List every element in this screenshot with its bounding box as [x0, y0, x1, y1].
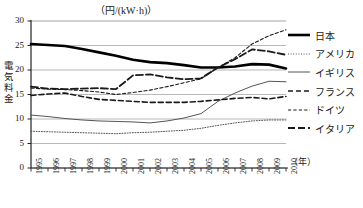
legend-swatch-icon-4 — [288, 105, 310, 115]
legend-item-5[interactable]: イタリア — [288, 119, 363, 138]
x-tick-label-2006: 2006 — [222, 158, 231, 174]
x-tick-label-2001: 2001 — [137, 158, 146, 174]
electricity-price-line-chart: （円/(kW·h)） 電 気 料 金 （年） 日本アメリカイギリスフランスドイツ… — [0, 0, 363, 208]
legend-label-1: アメリカ — [315, 46, 355, 61]
legend-label-4: ドイツ — [315, 102, 345, 117]
legend-label-2: イギリス — [315, 65, 355, 80]
legend-item-2[interactable]: イギリス — [288, 63, 363, 82]
y-tick-label-10: 10 — [6, 113, 24, 123]
x-tick-label-2009: 2009 — [273, 158, 282, 174]
y-tick-label-20: 20 — [6, 64, 24, 74]
legend-swatch-icon-3 — [288, 86, 310, 96]
x-tick-label-2003: 2003 — [171, 158, 180, 174]
x-tick-label-1995: 1995 — [35, 158, 44, 174]
x-tick-label-2008: 2008 — [256, 158, 265, 174]
legend-swatch-icon-1 — [288, 49, 310, 59]
legend-item-3[interactable]: フランス — [288, 82, 363, 101]
legend-swatch-icon-0 — [288, 30, 310, 40]
legend-label-0: 日本 — [315, 28, 335, 43]
x-tick-label-2010: 2010 — [290, 158, 299, 174]
x-tick-label-2004: 2004 — [188, 158, 197, 174]
legend-item-0[interactable]: 日本 — [288, 26, 363, 45]
y-tick-label-25: 25 — [6, 40, 24, 50]
legend-item-4[interactable]: ドイツ — [288, 100, 363, 119]
y-tick-label-5: 5 — [6, 138, 24, 148]
series-line-5 — [31, 49, 286, 89]
x-tick-label-2002: 2002 — [154, 158, 163, 174]
y-tick-label-15: 15 — [6, 89, 24, 99]
x-tick-label-2005: 2005 — [205, 158, 214, 174]
x-tick-label-2007: 2007 — [239, 158, 248, 174]
y-tick-label-30: 30 — [6, 15, 24, 25]
x-tick-label-1996: 1996 — [52, 158, 61, 174]
y-tick-label-0: 0 — [6, 162, 24, 172]
legend-swatch-icon-2 — [288, 67, 310, 77]
legend-swatch-icon-5 — [288, 123, 310, 133]
chart-legend: 日本アメリカイギリスフランスドイツイタリア — [288, 26, 363, 138]
x-tick-label-1997: 1997 — [69, 158, 78, 174]
x-tick-label-1999: 1999 — [103, 158, 112, 174]
legend-label-3: フランス — [315, 84, 355, 99]
x-tick-label-2000: 2000 — [120, 158, 129, 174]
x-tick-label-1998: 1998 — [86, 158, 95, 174]
y-axis-unit-label: （円/(kW·h)） — [95, 2, 157, 17]
legend-item-1[interactable]: アメリカ — [288, 45, 363, 64]
legend-label-5: イタリア — [315, 121, 355, 136]
